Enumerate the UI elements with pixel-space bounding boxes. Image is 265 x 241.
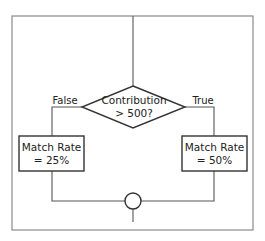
decision-text-line2: > 500?	[115, 107, 153, 119]
true-action-text-line2: = 50%	[197, 154, 232, 166]
false-action-text-line2: = 25%	[34, 154, 69, 166]
true-branch-label: True	[191, 95, 213, 106]
false-branch-line	[52, 107, 82, 136]
true-merge-line	[141, 171, 214, 201]
false-branch-label: False	[52, 95, 77, 106]
false-merge-line	[52, 171, 125, 201]
false-action-text-line1: Match Rate	[22, 141, 81, 153]
merge-connector-circle	[125, 193, 141, 209]
true-action-text-line1: Match Rate	[185, 141, 244, 153]
decision-text-line1: Contribution	[101, 94, 166, 106]
flowchart-diagram: Contribution > 500? False True Match Rat…	[0, 0, 265, 241]
true-branch-line	[185, 107, 214, 136]
